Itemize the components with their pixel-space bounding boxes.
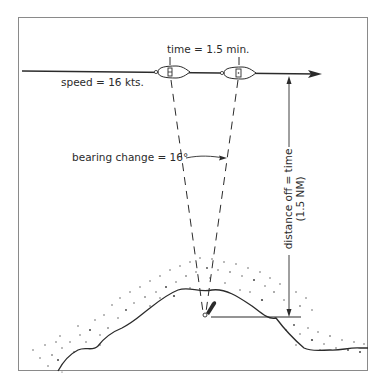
shoal-stipple <box>32 257 364 372</box>
lighthouse-icon <box>203 301 216 317</box>
distance-off-label: distance off = time (1.5 NM) <box>236 185 356 213</box>
time-label: time = 1.5 min. <box>167 44 249 55</box>
boat-position-1 <box>154 66 190 78</box>
distance-off-line2: (1.5 NM) <box>294 139 306 259</box>
distance-off-line1: distance off = time <box>282 139 294 259</box>
boat-position-2 <box>220 67 256 79</box>
speed-label: speed = 16 kts. <box>61 77 144 88</box>
bearing-line-1 <box>171 80 203 312</box>
bearing-line-2 <box>206 80 238 312</box>
coastline <box>58 289 368 371</box>
bearing-change-label: bearing change = 16° <box>72 152 188 163</box>
bearing-change-arrow <box>186 156 224 158</box>
